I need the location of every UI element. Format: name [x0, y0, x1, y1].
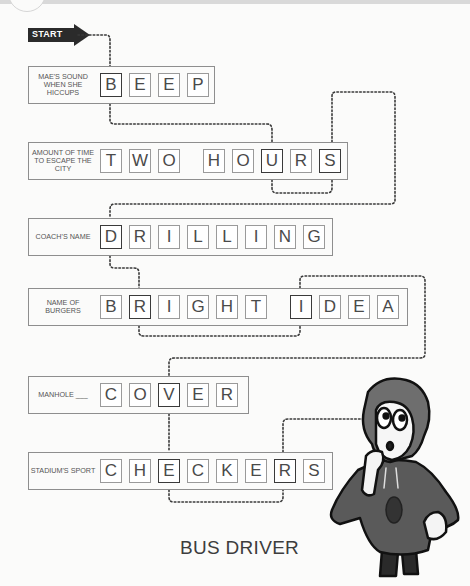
letter-tile[interactable]: L [216, 225, 238, 249]
letter-tile[interactable]: G [187, 295, 209, 319]
clue-row-1: MAE'S SOUND WHEN SHE HICCUPS B E E P [28, 66, 215, 104]
letter-tile[interactable]: D [319, 295, 341, 319]
letter-tile[interactable]: I [158, 295, 180, 319]
clue-text: STADIUM'S SPORT [29, 453, 97, 489]
letter-tile[interactable]: E [158, 73, 180, 97]
letter-tile[interactable]: D [100, 225, 122, 249]
clue-text: AMOUNT OF TIME TO ESCAPE THE CITY [29, 143, 97, 179]
clue-row-5: MANHOLE ___ C O V E R [28, 376, 249, 414]
letter-tile[interactable]: E [129, 73, 151, 97]
letter-tile[interactable]: O [232, 149, 254, 173]
clue-row-3: COACH'S NAME D R I L L I N G [28, 218, 333, 256]
letter-tile[interactable]: R [216, 383, 238, 407]
letter-tile[interactable]: C [187, 459, 209, 483]
letter-tile[interactable]: O [158, 149, 180, 173]
letter-tile[interactable]: V [158, 383, 180, 407]
letter-tile[interactable]: H [216, 295, 238, 319]
letter-tile[interactable]: R [129, 295, 151, 319]
letter-tile[interactable]: I [245, 225, 267, 249]
letter-tile[interactable]: C [100, 459, 122, 483]
letter-tile[interactable]: B [100, 295, 122, 319]
letter-tile[interactable]: B [100, 73, 122, 97]
letter-tile[interactable]: E [187, 383, 209, 407]
letter-tile[interactable]: I [158, 225, 180, 249]
letter-tile[interactable]: R [129, 225, 151, 249]
clue-text: NAME OF BURGERS [29, 289, 97, 325]
letter-tile[interactable]: R [274, 459, 296, 483]
clue-text: MANHOLE ___ [29, 377, 97, 413]
letter-tile[interactable]: W [129, 149, 151, 173]
letter-tile[interactable]: T [100, 149, 122, 173]
letter-tile[interactable]: U [261, 149, 283, 173]
letter-tile[interactable]: E [245, 459, 267, 483]
letter-tile[interactable]: L [187, 225, 209, 249]
letter-tile[interactable]: T [245, 295, 267, 319]
letter-tile[interactable]: K [216, 459, 238, 483]
clue-row-6: STADIUM'S SPORT C H E C K E R S [28, 452, 333, 490]
letter-tile[interactable]: N [274, 225, 296, 249]
letter-tile[interactable]: S [319, 149, 341, 173]
letter-tile[interactable]: G [303, 225, 325, 249]
letter-tile[interactable]: C [100, 383, 122, 407]
clue-row-4: NAME OF BURGERS B R I G H T I D E A [28, 288, 408, 326]
clue-text: COACH'S NAME [29, 219, 97, 255]
letter-tile[interactable]: R [290, 149, 312, 173]
letter-tile[interactable]: P [187, 73, 209, 97]
answer-title: BUS DRIVER [180, 537, 299, 559]
letter-tile[interactable]: I [290, 295, 312, 319]
letter-tile[interactable]: H [129, 459, 151, 483]
letter-tile[interactable]: E [158, 459, 180, 483]
character-illustration-icon [320, 370, 470, 586]
letter-tile[interactable]: E [348, 295, 370, 319]
clue-text: MAE'S SOUND WHEN SHE HICCUPS [29, 67, 97, 103]
clue-row-2: AMOUNT OF TIME TO ESCAPE THE CITY T W O … [28, 142, 348, 180]
letter-tile[interactable]: A [377, 295, 399, 319]
letter-tile[interactable]: H [203, 149, 225, 173]
letter-tile[interactable]: O [129, 383, 151, 407]
